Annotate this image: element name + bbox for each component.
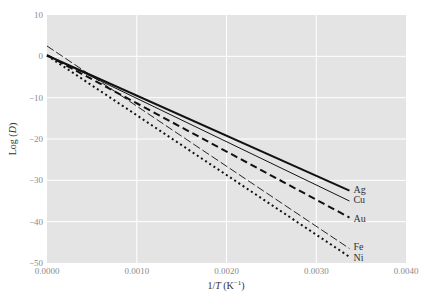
- diffusion-chart: 0.00000.00100.00200.00300.0040 100−10−20…: [0, 0, 431, 297]
- y-axis-label: Log (D): [7, 123, 19, 156]
- y-tick-label: 0: [39, 51, 44, 61]
- series-label-au: Au: [353, 213, 365, 224]
- x-tick-label: 0.0030: [304, 266, 329, 276]
- series-label-cu: Cu: [353, 194, 365, 205]
- x-axis-ticks: 0.00000.00100.00200.00300.0040: [35, 266, 419, 276]
- x-axis-label: 1/T (K−1): [207, 279, 244, 292]
- x-tick-label: 0.0040: [394, 266, 419, 276]
- y-axis-ticks: 100−10−20−30−40−50: [29, 10, 44, 268]
- y-tick-label: 10: [34, 10, 44, 20]
- y-tick-label: −20: [29, 134, 44, 144]
- y-tick-label: −10: [29, 93, 44, 103]
- y-tick-label: −30: [29, 175, 44, 185]
- y-tick-label: −50: [29, 258, 44, 268]
- series-label-fe: Fe: [353, 241, 364, 252]
- x-tick-label: 0.0010: [124, 266, 149, 276]
- y-tick-label: −40: [29, 217, 44, 227]
- x-tick-label: 0.0020: [214, 266, 239, 276]
- series-label-ni: Ni: [353, 252, 363, 263]
